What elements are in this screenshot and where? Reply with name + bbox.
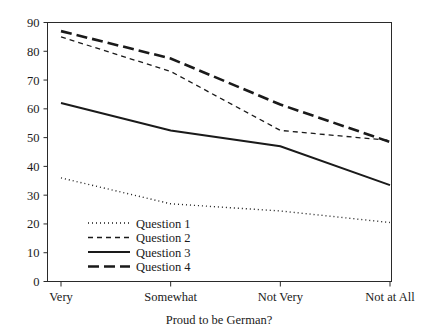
x-tick-label: Not at All	[365, 290, 415, 304]
x-tick-label: Very	[49, 290, 73, 304]
y-tick-label: 80	[27, 45, 40, 59]
x-axis-title: Proud to be German?	[166, 313, 273, 327]
y-tick-label: 70	[27, 74, 40, 88]
series-lines	[61, 31, 390, 222]
x-tick-label: Not Very	[258, 290, 304, 304]
plot-frame	[48, 23, 392, 282]
y-tick-label: 20	[27, 217, 40, 231]
y-tick-label: 10	[27, 246, 40, 260]
y-tick-label: 60	[27, 102, 40, 116]
legend-label: Question 4	[136, 260, 191, 274]
series-line	[61, 31, 390, 142]
series-line	[61, 178, 390, 223]
y-axis: 0102030405060708090	[27, 16, 48, 289]
y-tick-label: 50	[27, 131, 40, 145]
line-chart: 0102030405060708090 VerySomewhatNot Very…	[0, 0, 424, 333]
legend-label: Question 3	[136, 246, 191, 260]
y-tick-label: 90	[27, 16, 40, 30]
y-tick-label: 40	[27, 160, 40, 174]
chart-canvas: 0102030405060708090 VerySomewhatNot Very…	[0, 0, 424, 333]
y-tick-label: 0	[33, 275, 39, 289]
legend-label: Question 1	[136, 217, 191, 231]
y-tick-label: 30	[27, 189, 40, 203]
x-tick-label: Somewhat	[144, 290, 197, 304]
legend: Question 1Question 2Question 3Question 4	[88, 217, 191, 275]
series-line	[61, 103, 390, 185]
legend-label: Question 2	[136, 231, 191, 245]
x-axis: VerySomewhatNot VeryNot at All	[49, 282, 415, 304]
